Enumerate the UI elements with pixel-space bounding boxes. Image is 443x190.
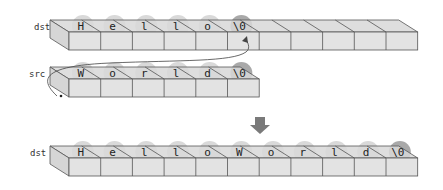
cell-char: o <box>204 146 211 159</box>
cell-char: r <box>141 67 148 80</box>
cell-char: l <box>173 146 180 159</box>
cell-char: d <box>363 146 370 159</box>
cell-char: r <box>299 146 306 159</box>
null-terminator-char: \0 <box>233 67 246 80</box>
down-arrow-icon <box>250 117 270 134</box>
null-terminator-char: \0 <box>391 146 404 159</box>
cell-char: H <box>78 146 85 159</box>
cell-char: l <box>141 20 148 33</box>
cell-char: o <box>268 146 275 159</box>
dst-array-before: Hello\0 <box>50 15 418 50</box>
dst-array-after: HelloWorld\0 <box>50 141 418 176</box>
src-array: World\0 <box>50 62 259 97</box>
cell-char: o <box>109 67 116 80</box>
cell-char: l <box>331 146 338 159</box>
null-terminator-char: \0 <box>233 20 246 33</box>
cell-char: W <box>78 67 85 80</box>
cell-char: H <box>78 20 85 33</box>
cell-char: o <box>204 20 211 33</box>
cell-char: e <box>109 146 116 159</box>
cell-char: d <box>204 67 211 80</box>
cell-char: e <box>109 20 116 33</box>
cell-char: l <box>141 146 148 159</box>
cell-char: l <box>173 20 180 33</box>
strcat-diagram: dst src dst Hello\0 World\0 HelloWorld\0 <box>0 0 443 190</box>
cell-char: l <box>173 67 180 80</box>
cell-char: W <box>236 146 243 159</box>
src-pointer-dot <box>60 95 63 98</box>
